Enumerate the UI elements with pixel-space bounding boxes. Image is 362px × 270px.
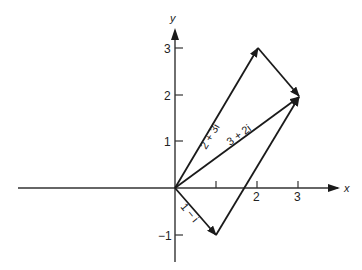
vector-2-plus-3i: 2 + 3i xyxy=(175,48,258,188)
y-ticks: 3 2 1 −1 xyxy=(158,42,183,243)
y-tick-label-neg1: −1 xyxy=(158,229,172,243)
vector-3-plus-2i: 3 + 2i xyxy=(175,97,299,188)
connector-1-minus-i-to-3-plus-2i xyxy=(216,97,299,235)
vector-1-minus-i: 1 − i xyxy=(175,188,216,235)
y-tick-label-3: 3 xyxy=(164,42,171,56)
x-tick-label-2: 2 xyxy=(253,190,260,204)
complex-plane-diagram: x y 2 3 3 2 1 −1 2 + 3i 3 + 2i 1 − i xyxy=(0,0,362,270)
vector-label-3-plus-2i: 3 + 2i xyxy=(224,122,253,148)
vector-label-1-minus-i: 1 − i xyxy=(178,201,201,225)
connector-2-plus-3i-to-3-plus-2i xyxy=(258,48,299,96)
x-axis-label: x xyxy=(343,182,350,194)
x-ticks: 2 3 xyxy=(216,181,301,204)
y-axis-label: y xyxy=(169,12,177,24)
y-tick-label-1: 1 xyxy=(164,135,171,149)
vector-label-2-plus-3i: 2 + 3i xyxy=(197,122,221,152)
x-tick-label-3: 3 xyxy=(294,190,301,204)
x-axis-arrow-icon xyxy=(328,184,340,192)
y-axis-arrow-icon xyxy=(171,28,179,40)
y-tick-label-2: 2 xyxy=(164,89,171,103)
